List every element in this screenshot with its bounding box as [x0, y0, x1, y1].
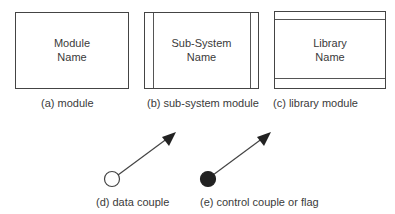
data-couple-caption: (d) data couple — [96, 196, 169, 208]
control-couple-caption: (e) control couple or flag — [200, 196, 319, 208]
couples-graphic — [0, 0, 395, 214]
open-circle-arrow-icon — [105, 132, 177, 187]
filled-circle-arrow-icon — [201, 132, 272, 187]
